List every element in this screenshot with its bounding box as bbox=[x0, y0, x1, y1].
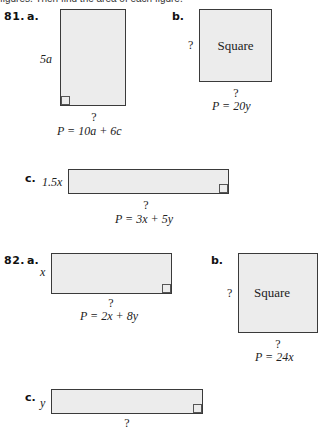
problem-number-82: 82. bbox=[4, 254, 25, 267]
side-label-81c: 1.5x bbox=[42, 175, 62, 190]
perimeter-81c: P = 3x + 5y bbox=[115, 212, 173, 227]
rectangle-81c bbox=[68, 169, 229, 194]
side-label-82b: ? bbox=[227, 286, 232, 301]
side-label-82a: x bbox=[40, 265, 45, 280]
right-angle-marker bbox=[61, 96, 70, 105]
perimeter-81b: P = 20y bbox=[212, 99, 251, 114]
right-angle-marker bbox=[193, 404, 202, 413]
right-angle-marker bbox=[162, 284, 171, 293]
perimeter-82b: P = 24x bbox=[255, 350, 294, 365]
rectangle-82c bbox=[51, 389, 203, 414]
side-label-81b: ? bbox=[188, 38, 193, 53]
part-label-81c: c. bbox=[25, 172, 36, 185]
part-label-82b: b. bbox=[211, 254, 223, 267]
problem-number-81: 81. bbox=[4, 10, 25, 23]
part-label-82a: a. bbox=[27, 254, 39, 267]
rectangle-81a bbox=[60, 9, 126, 106]
square-text-82b: Square bbox=[254, 285, 290, 301]
square-82b: Square bbox=[238, 253, 318, 333]
part-label-81a: a. bbox=[27, 10, 39, 23]
bottom-label-81a: ? bbox=[84, 110, 104, 125]
bottom-label-81c: ? bbox=[136, 198, 156, 213]
perimeter-81a: P = 10a + 6c bbox=[57, 124, 122, 139]
part-label-82c: c. bbox=[25, 391, 36, 404]
bottom-label-82c: ? bbox=[117, 416, 137, 431]
square-81b: Square bbox=[199, 9, 272, 82]
right-angle-marker bbox=[219, 184, 228, 193]
part-label-81b: b. bbox=[172, 10, 184, 23]
instruction-text: figures. Then find the area of each figu… bbox=[0, 0, 183, 4]
side-label-81a: 5a bbox=[40, 52, 52, 67]
perimeter-82a: P = 2x + 8y bbox=[80, 309, 138, 324]
rectangle-82a bbox=[51, 253, 172, 294]
square-text-81b: Square bbox=[217, 38, 253, 54]
side-label-82c: y bbox=[40, 396, 45, 411]
